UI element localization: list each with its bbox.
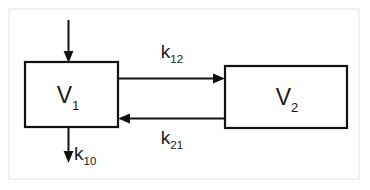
compartment-v1[interactable]: V1 <box>25 62 118 127</box>
k12-arrow <box>118 74 225 84</box>
input-arrow <box>64 20 74 63</box>
k21-arrow <box>118 114 225 124</box>
compartment-v2[interactable]: V2 <box>225 66 347 128</box>
k21-label: k21 <box>161 127 183 151</box>
k10-label: k10 <box>74 143 96 167</box>
diagram-canvas: V1 V2 k12 k21 <box>0 0 370 190</box>
k10-arrow <box>64 127 74 163</box>
two-compartment-model-diagram: V1 V2 k12 k21 <box>0 0 370 190</box>
k12-label: k12 <box>161 41 183 65</box>
